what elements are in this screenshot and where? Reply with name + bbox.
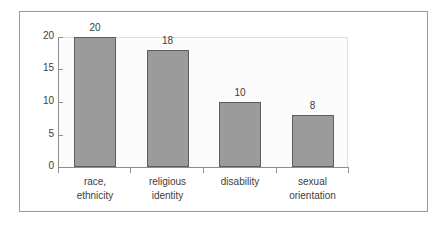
x-label-disability-line1: disability <box>204 175 276 189</box>
y-tick-label-20: 20 <box>43 30 54 42</box>
chart-frame: 20 15 10 5 0 20 18 10 8 <box>19 11 428 212</box>
bars-layer: 20 18 10 8 <box>59 37 349 167</box>
bar-disability[interactable] <box>219 102 261 167</box>
y-tick-label-0: 0 <box>48 160 54 172</box>
x-axis-tick-1 <box>130 168 131 173</box>
x-axis-tick-3 <box>276 168 277 173</box>
x-label-sexual-orientation-line1: sexual <box>276 175 349 189</box>
x-axis-tick-4 <box>348 168 349 173</box>
x-label-race-ethnicity: race, ethnicity <box>59 175 131 203</box>
y-tick-label-10: 10 <box>43 95 54 107</box>
bar-religious-identity[interactable] <box>147 50 189 167</box>
x-label-religious-identity: religious identity <box>131 175 204 203</box>
bar-value-label-race-ethnicity: 20 <box>89 22 100 34</box>
x-axis-tick-2 <box>203 168 204 173</box>
x-label-religious-identity-line2: identity <box>131 189 204 203</box>
bar-slot-race-ethnicity: 20 <box>59 37 131 167</box>
bar-value-label-disability: 10 <box>234 87 245 99</box>
bar-slot-disability: 10 <box>204 37 276 167</box>
x-label-race-ethnicity-line2: ethnicity <box>59 189 131 203</box>
bar-race-ethnicity[interactable] <box>74 37 116 167</box>
x-label-religious-identity-line1: religious <box>131 175 204 189</box>
x-label-sexual-orientation: sexual orientation <box>276 175 349 203</box>
bar-value-label-religious-identity: 18 <box>162 35 173 47</box>
y-tick-label-15: 15 <box>43 62 54 74</box>
y-tick-label-5: 5 <box>48 128 54 140</box>
x-axis-labels: race, ethnicity religious identity disab… <box>59 175 349 215</box>
x-label-race-ethnicity-line1: race, <box>59 175 131 189</box>
bar-sexual-orientation[interactable] <box>292 115 334 167</box>
x-label-sexual-orientation-line2: orientation <box>276 189 349 203</box>
bar-value-label-sexual-orientation: 8 <box>310 100 316 112</box>
x-label-disability: disability <box>204 175 276 189</box>
bar-slot-sexual-orientation: 8 <box>276 37 349 167</box>
x-axis-tick-0 <box>58 168 59 173</box>
bar-slot-religious-identity: 18 <box>131 37 204 167</box>
